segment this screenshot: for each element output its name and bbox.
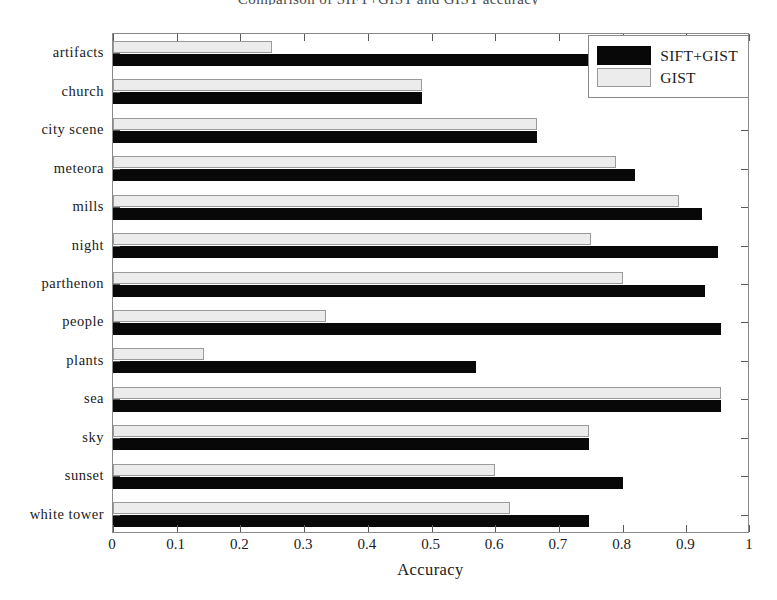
y-label-meteora: meteora <box>0 159 104 176</box>
x-axis-title: Accuracy <box>112 560 749 580</box>
y-tick <box>113 399 120 400</box>
x-tick-label: 0.5 <box>421 536 440 553</box>
x-tick-label: 0.1 <box>166 536 185 553</box>
y-label-sunset: sunset <box>0 467 104 484</box>
x-tick <box>749 34 750 41</box>
y-tick <box>741 515 748 516</box>
legend-label-sift-gist: SIFT+GIST <box>660 47 738 65</box>
y-label-parthenon: parthenon <box>0 275 104 292</box>
x-tick <box>749 525 750 532</box>
bar-sift-gist-sunset <box>113 477 623 489</box>
bar-gist-sunset <box>113 464 495 476</box>
y-label-city-scene: city scene <box>0 121 104 138</box>
x-tick <box>368 34 369 41</box>
legend-swatch-sift-gist <box>597 46 651 65</box>
x-tick-label: 1 <box>745 536 753 553</box>
x-tick-label: 0.4 <box>357 536 376 553</box>
y-tick <box>741 476 748 477</box>
x-tick <box>113 525 114 532</box>
y-label-artifacts: artifacts <box>0 44 104 61</box>
y-tick <box>113 284 120 285</box>
y-tick <box>113 92 120 93</box>
y-label-night: night <box>0 236 104 253</box>
x-tick-label: 0.2 <box>230 536 249 553</box>
x-tick <box>686 525 687 532</box>
x-tick <box>177 34 178 41</box>
y-tick <box>113 322 120 323</box>
legend-label-gist: GIST <box>660 69 696 87</box>
bar-chart: Comparison of SIFT+GIST and GIST accurac… <box>0 0 777 600</box>
x-tick <box>368 525 369 532</box>
bar-sift-gist-sky <box>113 438 589 450</box>
x-tick <box>113 34 114 41</box>
bar-sift-gist-white-tower <box>113 515 589 527</box>
bar-gist-plants <box>113 348 204 360</box>
y-tick <box>113 438 120 439</box>
y-tick <box>113 207 120 208</box>
bar-sift-gist-parthenon <box>113 285 705 297</box>
y-label-sea: sea <box>0 390 104 407</box>
bar-gist-people <box>113 310 326 322</box>
y-tick <box>741 130 748 131</box>
x-tick <box>495 525 496 532</box>
bar-sift-gist-people <box>113 323 721 335</box>
y-tick <box>741 169 748 170</box>
x-tick <box>559 525 560 532</box>
y-tick <box>113 361 120 362</box>
y-tick <box>113 246 120 247</box>
y-label-plants: plants <box>0 351 104 368</box>
bar-sift-gist-night <box>113 246 718 258</box>
x-tick-label: 0.9 <box>676 536 695 553</box>
legend-item-gist: GIST <box>597 68 738 87</box>
bar-gist-sea <box>113 387 721 399</box>
x-tick <box>432 525 433 532</box>
bar-sift-gist-meteora <box>113 169 635 181</box>
x-tick <box>304 525 305 532</box>
y-tick <box>113 169 120 170</box>
bar-sift-gist-sea <box>113 400 721 412</box>
x-tick-label: 0.8 <box>612 536 631 553</box>
y-tick <box>113 53 120 54</box>
bar-gist-parthenon <box>113 272 623 284</box>
x-tick <box>177 525 178 532</box>
x-tick-label: 0.6 <box>485 536 504 553</box>
bar-gist-night <box>113 233 591 245</box>
x-tick <box>304 34 305 41</box>
x-tick <box>495 34 496 41</box>
legend-swatch-gist <box>597 68 651 87</box>
bars-container <box>113 34 748 532</box>
bar-gist-white-tower <box>113 502 510 514</box>
y-label-sky: sky <box>0 428 104 445</box>
bar-gist-artifacts <box>113 41 272 53</box>
x-axis-tick-labels: 00.10.20.30.40.50.60.70.80.91 <box>112 536 749 560</box>
x-tick <box>240 525 241 532</box>
y-tick <box>741 399 748 400</box>
y-label-white-tower: white tower <box>0 505 104 522</box>
x-tick <box>559 34 560 41</box>
y-tick <box>741 361 748 362</box>
plot-area <box>112 33 749 533</box>
y-label-church: church <box>0 82 104 99</box>
y-tick <box>741 207 748 208</box>
bar-sift-gist-church <box>113 92 422 104</box>
y-label-people: people <box>0 313 104 330</box>
y-tick <box>741 322 748 323</box>
bar-sift-gist-plants <box>113 361 476 373</box>
legend-item-sift-gist: SIFT+GIST <box>597 46 738 65</box>
bar-sift-gist-mills <box>113 208 702 220</box>
x-tick-label: 0.3 <box>294 536 313 553</box>
x-tick <box>240 34 241 41</box>
y-tick <box>741 246 748 247</box>
y-tick <box>113 476 120 477</box>
x-tick <box>623 525 624 532</box>
y-tick <box>113 130 120 131</box>
x-tick <box>432 34 433 41</box>
x-tick-label: 0 <box>108 536 116 553</box>
bar-gist-sky <box>113 425 589 437</box>
y-tick <box>113 515 120 516</box>
y-tick <box>741 284 748 285</box>
y-tick <box>741 438 748 439</box>
chart-title: Comparison of SIFT+GIST and GIST accurac… <box>0 0 777 5</box>
bar-gist-mills <box>113 195 679 207</box>
bar-sift-gist-artifacts <box>113 54 591 66</box>
